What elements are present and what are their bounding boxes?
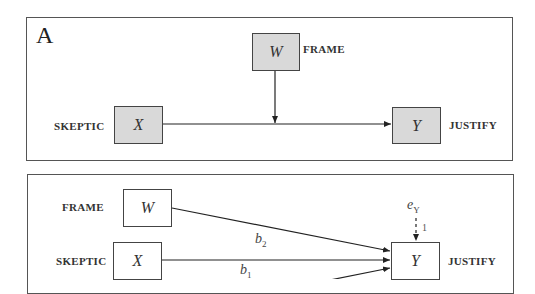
- panel-b-arrow-xw-to-y: [330, 268, 390, 279]
- panel-b-arrow-w-to-y: [172, 208, 390, 251]
